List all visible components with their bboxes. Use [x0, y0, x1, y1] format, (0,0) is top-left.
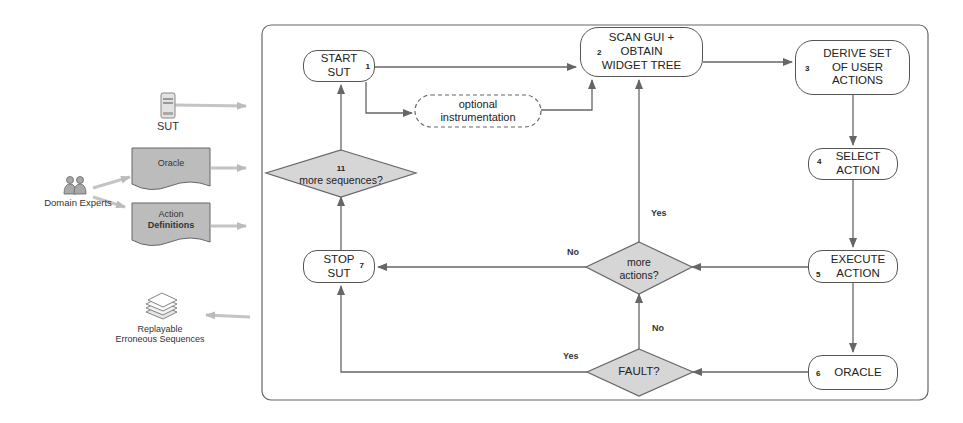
- step-number: 11: [337, 164, 345, 173]
- domain-experts-label: Domain Experts: [28, 198, 128, 209]
- scan-gui-line2: OBTAIN: [621, 45, 663, 57]
- step-number: 7: [360, 261, 364, 271]
- stacked-pages-icon: [146, 293, 177, 319]
- step-number: 5: [816, 270, 820, 280]
- more-actions-no-label: No: [567, 247, 579, 257]
- stop-sut-line2: SUT: [327, 267, 350, 279]
- more-actions-line2: actions?: [619, 269, 658, 281]
- optional-line1: optional: [459, 98, 498, 110]
- more-sequences-label: 11 more sequences?: [281, 161, 401, 186]
- select-line1: SELECT: [836, 150, 881, 162]
- derive-line1: DERIVE SET: [823, 47, 891, 59]
- optional-line2: instrumentation: [440, 111, 515, 123]
- select-line2: ACTION: [836, 164, 879, 176]
- more-actions-line1: more: [627, 256, 651, 268]
- execute-line2: ACTION: [836, 267, 879, 279]
- fault-label: FAULT?: [600, 365, 678, 379]
- execute-line1: EXECUTE: [831, 253, 885, 265]
- derive-line3: ACTIONS: [832, 74, 883, 86]
- oracle-node: ORACLE 6: [808, 355, 898, 390]
- select-action-node: SELECTACTION 4: [808, 148, 898, 180]
- optional-instrumentation-label: optional instrumentation: [415, 98, 541, 124]
- scan-gui-node: SCAN GUI +OBTAINWIDGET TREE 2: [580, 27, 703, 77]
- more-sequences-line1: more sequences?: [299, 174, 382, 186]
- fault-yes-label: Yes: [563, 351, 579, 361]
- more-actions-yes-label: Yes: [651, 208, 667, 218]
- start-sut-line2: SUT: [327, 66, 350, 78]
- scan-gui-line3: WIDGET TREE: [602, 59, 681, 71]
- sut-label: SUT: [148, 120, 188, 133]
- people-icon: [64, 177, 86, 195]
- stop-sut-node: STOPSUT 7: [303, 250, 375, 283]
- derive-set-node: DERIVE SETOF USERACTIONS 3: [795, 40, 910, 95]
- replayable-label: Replayable Erroneous Sequences: [100, 324, 220, 345]
- replayable-line2: Erroneous Sequences: [115, 334, 204, 344]
- scan-gui-line1: SCAN GUI +: [609, 31, 675, 43]
- action-definitions-line2: Definitions: [148, 220, 195, 230]
- more-actions-label: more actions?: [600, 256, 678, 281]
- step-number: 3: [805, 64, 809, 74]
- step-number: 4: [817, 157, 821, 167]
- step-number: 2: [597, 48, 601, 58]
- action-definitions-line1: Action: [158, 209, 183, 219]
- stop-sut-line1: STOP: [323, 253, 354, 265]
- step-number: 6: [816, 369, 820, 379]
- replayable-line1: Replayable: [137, 324, 182, 334]
- execute-action-node: EXECUTEACTION 5: [808, 250, 898, 283]
- derive-line2: OF USER: [832, 61, 883, 73]
- action-definitions-label: Action Definitions: [132, 209, 210, 231]
- start-sut-node: STARTSUT 1: [303, 50, 375, 82]
- start-sut-line1: START: [321, 52, 358, 64]
- fault-no-label: No: [652, 323, 664, 333]
- oracle-line1: ORACLE: [834, 366, 881, 378]
- step-number: 1: [366, 62, 370, 72]
- oracle-doc-label: Oracle: [132, 158, 210, 169]
- server-icon: [161, 93, 175, 118]
